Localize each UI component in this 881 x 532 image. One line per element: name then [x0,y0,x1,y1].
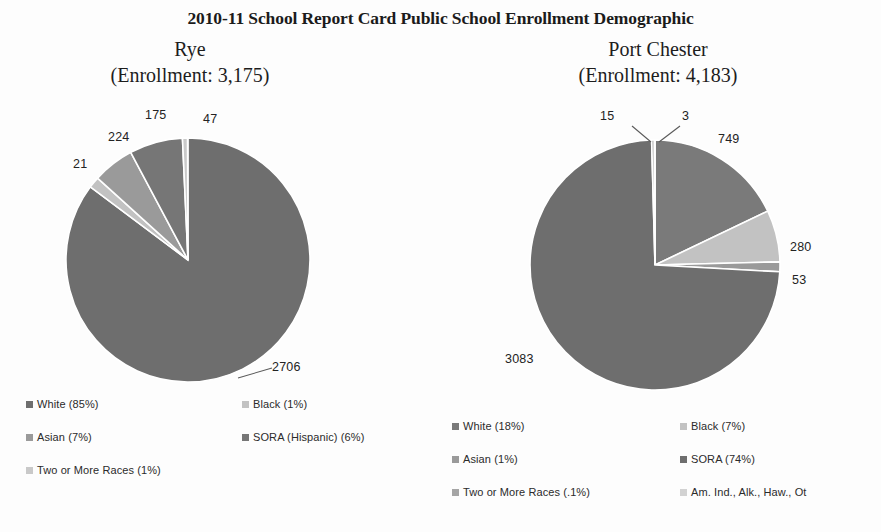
legend-row: Two or More Races (1%) [26,464,456,497]
legend-swatch-icon [26,467,33,474]
pie-label-asian-pc: 53 [792,273,806,287]
legend-item-am-ind-pc[interactable]: Am. Ind., Alk., Haw., Ot [680,486,807,498]
school-name-left: Rye [40,36,340,62]
legend-swatch-icon [242,434,249,441]
legend-label: Asian (1%) [463,453,518,465]
school-heading-rye: Rye (Enrollment: 3,175) [40,36,340,89]
legend-label: White (18%) [463,420,525,432]
pie-svg-port-chester [520,120,860,405]
pie-label-white-rye: 2706 [272,360,301,374]
legend-port-chester: White (18%) Black (7%) Asian (1%) SORA (… [452,420,880,519]
leader-line-am-ind-pc [659,126,680,142]
legend-swatch-icon [242,401,249,408]
school-enrollment-left: (Enrollment: 3,175) [40,62,340,88]
pie-label-two-or-more-pc: 15 [600,109,614,123]
legend-row: White (18%) Black (7%) [452,420,880,453]
legend-rye: White (85%) Black (1%) Asian (7%) SORA (… [26,398,456,497]
legend-swatch-icon [680,423,687,430]
pie-label-black-pc: 280 [790,240,811,254]
legend-swatch-icon [452,456,459,463]
legend-swatch-icon [452,489,459,496]
legend-label: Asian (7%) [37,431,92,443]
legend-swatch-icon [26,434,33,441]
legend-row: Asian (1%) SORA (74%) [452,453,880,486]
report-figure: 2010-11 School Report Card Public School… [0,0,881,532]
school-heading-port-chester: Port Chester (Enrollment: 4,183) [508,36,808,89]
legend-item-asian-rye[interactable]: Asian (7%) [26,431,92,443]
legend-label: Two or More Races (1%) [37,464,161,476]
pie-slices-port-chester [530,140,780,390]
pie-chart-rye: 47 175 224 21 2706 [60,130,400,400]
legend-row: White (85%) Black (1%) [26,398,456,431]
legend-item-black-rye[interactable]: Black (1%) [242,398,307,410]
legend-label: Two or More Races (.1%) [463,486,590,498]
legend-item-asian-pc[interactable]: Asian (1%) [452,453,518,465]
pie-label-sora-pc: 3083 [505,352,534,366]
pie-svg-rye [60,130,400,400]
legend-label: Black (7%) [691,420,745,432]
legend-item-two-or-more-pc[interactable]: Two or More Races (.1%) [452,486,590,498]
legend-label: White (85%) [37,398,99,410]
scan-artifact [0,520,881,532]
legend-item-sora-pc[interactable]: SORA (74%) [680,453,755,465]
legend-label: Black (1%) [253,398,307,410]
legend-item-black-pc[interactable]: Black (7%) [680,420,745,432]
leader-line-two-or-more-pc [632,126,651,142]
legend-item-sora-rye[interactable]: SORA (Hispanic) (6%) [242,431,364,443]
pie-label-sora-rye: 224 [108,130,129,144]
legend-swatch-icon [680,456,687,463]
pie-label-am-ind-pc: 3 [682,109,689,123]
page-title: 2010-11 School Report Card Public School… [0,8,881,29]
legend-label: Am. Ind., Alk., Haw., Ot [691,486,807,498]
pie-label-white-pc: 749 [718,132,739,146]
pie-label-two-or-more-rye: 21 [73,157,87,171]
pie-label-asian-rye: 175 [145,108,166,122]
pie-chart-port-chester: 15 3 749 280 53 3083 [520,120,860,405]
pie-slices-rye [66,138,310,382]
legend-item-white-pc[interactable]: White (18%) [452,420,525,432]
legend-label: SORA (74%) [691,453,755,465]
school-name-right: Port Chester [508,36,808,62]
legend-item-two-or-more-rye[interactable]: Two or More Races (1%) [26,464,161,476]
legend-label: SORA (Hispanic) (6%) [253,431,364,443]
school-enrollment-right: (Enrollment: 4,183) [508,62,808,88]
legend-swatch-icon [680,489,687,496]
slice-am-ind-pc [654,140,655,265]
legend-swatch-icon [26,401,33,408]
pie-label-black-rye: 47 [203,112,217,126]
legend-swatch-icon [452,423,459,430]
legend-item-white-rye[interactable]: White (85%) [26,398,99,410]
legend-row: Asian (7%) SORA (Hispanic) (6%) [26,431,456,464]
legend-row: Two or More Races (.1%) Am. Ind., Alk., … [452,486,880,519]
